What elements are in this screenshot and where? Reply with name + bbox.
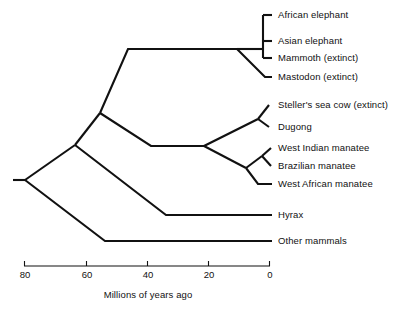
branch-root-to-paenungulata	[25, 145, 75, 180]
branch-tethytheria-to-proboscidea	[100, 49, 237, 113]
axis-tick-label-60: 60	[82, 269, 93, 280]
axis-caption: Millions of years ago	[104, 289, 193, 300]
branch-group-proboscidea	[237, 15, 272, 77]
time-axis	[24, 261, 270, 266]
branch-group-paenungulata	[75, 113, 272, 215]
branch-sirenia-to-trichechidae	[204, 146, 246, 168]
tree-diagram	[0, 0, 399, 313]
branch-tip-stellers-sea-cow	[258, 105, 269, 119]
taxon-label-west-african-manatee: West African manatee	[278, 179, 373, 189]
taxon-label-mastodon: Mastodon (extinct)	[278, 72, 358, 82]
phylogenetic-tree-figure: African elephant Asian elephant Mammoth …	[0, 0, 399, 313]
branch-group-trichechidae	[246, 148, 272, 184]
taxon-label-other-mammals: Other mammals	[278, 236, 347, 246]
branch-trichechidae-to-manatee-pair	[246, 156, 262, 168]
branch-tip-brazilian-manatee	[262, 156, 271, 166]
taxon-label-mammoth: Mammoth (extinct)	[278, 53, 358, 63]
taxon-label-hyrax: Hyrax	[278, 210, 303, 220]
branch-tip-west-indian-manatee	[262, 148, 271, 156]
taxon-label-dugong: Dugong	[278, 122, 312, 132]
axis-tick-label-20: 20	[204, 269, 215, 280]
branch-paenungulata-to-hyrax	[75, 145, 272, 215]
axis-tick-label-40: 40	[143, 269, 154, 280]
branch-group-dugongidae	[258, 105, 269, 127]
branch-group-sirenia	[204, 119, 258, 168]
taxon-label-west-indian-manatee: West Indian manatee	[278, 143, 370, 153]
taxon-label-asian-elephant: Asian elephant	[278, 36, 342, 46]
axis-tick-label-80: 80	[20, 269, 31, 280]
branch-tip-west-african-manatee	[246, 168, 272, 184]
taxon-label-brazilian-manatee: Brazilian manatee	[278, 161, 356, 171]
branch-group-root	[13, 145, 272, 241]
branch-paenungulata-to-tethytheria	[75, 113, 100, 145]
taxon-label-stellers-sea-cow: Steller's sea cow (extinct)	[278, 100, 388, 110]
branch-root-to-other-mammals	[25, 180, 272, 241]
branch-group-tethytheria	[100, 49, 237, 146]
branch-proboscidea-to-mastodon	[237, 49, 272, 77]
branch-tip-dugong	[258, 119, 269, 127]
branch-tethytheria-to-sirenia	[100, 113, 204, 146]
axis-tick-label-0: 0	[267, 269, 272, 280]
taxon-label-african-elephant: African elephant	[278, 10, 348, 20]
branch-sirenia-to-dugongidae	[204, 119, 258, 146]
